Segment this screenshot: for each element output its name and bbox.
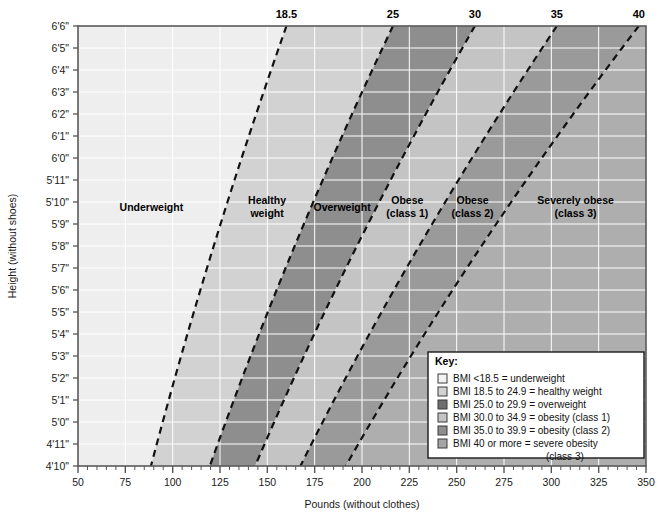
legend-item-label: BMI 40 or more = severe obesity bbox=[453, 438, 598, 449]
y-tick-label: 5'3" bbox=[52, 350, 70, 362]
y-axis: 6'6"6'5"6'4"6'3"6'2"6'1"6'0"5'11"5'10"5'… bbox=[46, 20, 78, 472]
bmi-chart-canvas: 6'6"6'5"6'4"6'3"6'2"6'1"6'0"5'11"5'10"5'… bbox=[0, 0, 664, 523]
legend-item-label: BMI 35.0 to 39.9 = obesity (class 2) bbox=[453, 425, 610, 436]
legend-title: Key: bbox=[435, 355, 458, 367]
x-tick-label: 300 bbox=[543, 476, 561, 488]
top-tick-label: 18.5 bbox=[276, 8, 297, 20]
y-tick-label: 4'10" bbox=[46, 460, 70, 472]
y-tick-label: 5'8" bbox=[52, 240, 70, 252]
band-label: Severely obese bbox=[537, 194, 614, 206]
top-tick-label: 40 bbox=[633, 8, 645, 20]
y-tick-label: 5'11" bbox=[47, 174, 70, 186]
y-tick-label: 5'9" bbox=[52, 218, 70, 230]
band-label: (class 3) bbox=[555, 207, 597, 219]
y-tick-label: 6'5" bbox=[52, 42, 70, 54]
legend-swatch bbox=[438, 426, 447, 435]
y-tick-label: 5'6" bbox=[52, 284, 70, 296]
x-axis-title: Pounds (without clothes) bbox=[305, 498, 420, 510]
y-tick-label: 4'11" bbox=[47, 438, 70, 450]
y-tick-label: 5'5" bbox=[52, 306, 70, 318]
legend-swatch bbox=[438, 374, 447, 383]
y-tick-label: 5'2" bbox=[52, 372, 70, 384]
x-tick-label: 100 bbox=[164, 476, 182, 488]
y-tick-label: 5'7" bbox=[52, 262, 70, 274]
legend-item-label: BMI 30.0 to 34.9 = obesity (class 1) bbox=[453, 412, 610, 423]
x-tick-label: 50 bbox=[72, 476, 84, 488]
legend: Key:BMI <18.5 = underweightBMI 18.5 to 2… bbox=[428, 352, 644, 462]
x-tick-label: 350 bbox=[637, 476, 655, 488]
legend-item-label: BMI <18.5 = underweight bbox=[453, 373, 565, 384]
band-label: (class 1) bbox=[386, 207, 428, 219]
band-label: Healthy bbox=[248, 194, 286, 206]
y-tick-label: 6'0" bbox=[52, 152, 70, 164]
legend-swatch bbox=[438, 439, 447, 448]
legend-swatch bbox=[438, 387, 447, 396]
band-label: Obese bbox=[457, 194, 489, 206]
x-axis: 5075100125150175200225250275300325350 bbox=[72, 466, 655, 488]
x-tick-label: 275 bbox=[495, 476, 513, 488]
y-tick-label: 5'0" bbox=[52, 416, 70, 428]
x-tick-label: 250 bbox=[448, 476, 466, 488]
legend-item-label: BMI 25.0 to 29.9 = overweight bbox=[453, 399, 586, 410]
x-tick-label: 125 bbox=[211, 476, 229, 488]
x-tick-label: 200 bbox=[353, 476, 371, 488]
x-tick-label: 150 bbox=[259, 476, 277, 488]
y-tick-label: 6'6" bbox=[52, 20, 70, 32]
legend-continuation: (class 3) bbox=[546, 451, 584, 462]
x-tick-label: 175 bbox=[306, 476, 324, 488]
legend-item-label: BMI 18.5 to 24.9 = healthy weight bbox=[453, 386, 602, 397]
y-tick-label: 5'4" bbox=[52, 328, 70, 340]
y-tick-label: 6'3" bbox=[52, 86, 70, 98]
y-tick-label: 6'2" bbox=[52, 108, 70, 120]
x-tick-label: 75 bbox=[119, 476, 131, 488]
band-label: Underweight bbox=[120, 201, 184, 213]
top-tick-label: 25 bbox=[387, 8, 399, 20]
legend-swatch bbox=[438, 413, 447, 422]
x-tick-label: 325 bbox=[590, 476, 608, 488]
y-tick-label: 6'1" bbox=[52, 130, 70, 142]
legend-swatch bbox=[438, 400, 447, 409]
y-tick-label: 6'4" bbox=[52, 64, 70, 76]
y-axis-title: Height (without shoes) bbox=[6, 194, 18, 298]
x-tick-label: 225 bbox=[401, 476, 419, 488]
band-label: Obese bbox=[391, 194, 423, 206]
top-tick-label: 35 bbox=[551, 8, 563, 20]
top-axis: 18.525303540 bbox=[276, 8, 645, 20]
bmi-chart: 6'6"6'5"6'4"6'3"6'2"6'1"6'0"5'11"5'10"5'… bbox=[0, 0, 664, 523]
y-tick-label: 5'10" bbox=[46, 196, 70, 208]
band-label: Overweight bbox=[314, 201, 372, 213]
band-label: (class 2) bbox=[452, 207, 494, 219]
top-tick-label: 30 bbox=[469, 8, 481, 20]
y-tick-label: 5'1" bbox=[52, 394, 70, 406]
band-label: weight bbox=[249, 207, 284, 219]
